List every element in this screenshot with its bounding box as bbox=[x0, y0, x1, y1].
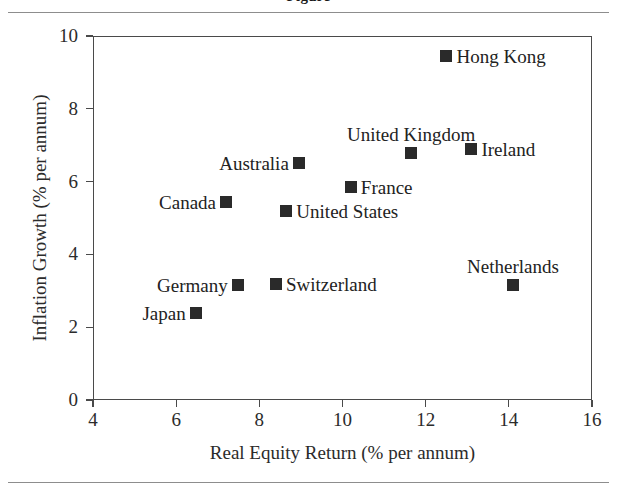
x-tick-label-6: 6 bbox=[156, 410, 196, 429]
plot-area: Hong KongIrelandUnited KingdomAustraliaF… bbox=[93, 36, 592, 400]
x-tick-label-16: 16 bbox=[572, 410, 612, 429]
x-tick-14 bbox=[508, 400, 509, 407]
y-tick-label-4: 4 bbox=[48, 244, 78, 263]
y-tick-8 bbox=[86, 108, 93, 109]
x-tick-4 bbox=[92, 400, 93, 407]
data-point-marker bbox=[270, 278, 282, 290]
x-tick-6 bbox=[176, 400, 177, 407]
y-tick-6 bbox=[86, 181, 93, 182]
data-point-marker bbox=[440, 50, 452, 62]
data-point-marker bbox=[232, 279, 244, 291]
x-tick-16 bbox=[591, 400, 592, 407]
y-tick-4 bbox=[86, 254, 93, 255]
y-tick-label-6: 6 bbox=[48, 172, 78, 191]
y-tick-10 bbox=[86, 35, 93, 36]
data-point-marker bbox=[190, 307, 202, 319]
data-point-marker bbox=[507, 279, 519, 291]
data-point-label: Germany bbox=[157, 276, 228, 295]
data-point-label: Switzerland bbox=[286, 275, 377, 294]
x-axis-label: Real Equity Return (% per annum) bbox=[93, 443, 592, 462]
x-tick-8 bbox=[259, 400, 260, 407]
data-point-label: Hong Kong bbox=[456, 47, 545, 66]
data-point-marker bbox=[220, 196, 232, 208]
x-tick-12 bbox=[425, 400, 426, 407]
data-point-label: Japan bbox=[142, 304, 185, 323]
x-tick-label-14: 14 bbox=[489, 410, 529, 429]
data-point-marker bbox=[345, 181, 357, 193]
data-point-marker bbox=[405, 147, 417, 159]
scatter-chart: 0246810 46810121416 Hong KongIrelandUnit… bbox=[0, 0, 617, 490]
data-point-marker bbox=[293, 157, 305, 169]
x-tick-label-4: 4 bbox=[73, 410, 113, 429]
x-tick-label-12: 12 bbox=[406, 410, 446, 429]
data-point-label: Canada bbox=[159, 193, 216, 212]
data-point-marker bbox=[280, 205, 292, 217]
y-axis-label: Inflation Growth (% per annum) bbox=[30, 36, 49, 400]
y-tick-label-0: 0 bbox=[48, 390, 78, 409]
y-tick-label-2: 2 bbox=[48, 317, 78, 336]
data-point-label: Netherlands bbox=[467, 257, 559, 276]
y-tick-label-10: 10 bbox=[48, 26, 78, 45]
data-point-label: Ireland bbox=[481, 140, 535, 159]
data-point-label: Australia bbox=[219, 154, 289, 173]
x-tick-label-8: 8 bbox=[239, 410, 279, 429]
y-tick-2 bbox=[86, 327, 93, 328]
x-tick-10 bbox=[342, 400, 343, 407]
x-tick-label-10: 10 bbox=[323, 410, 363, 429]
data-point-label: France bbox=[361, 178, 413, 197]
data-point-label: United Kingdom bbox=[347, 125, 475, 144]
y-tick-label-8: 8 bbox=[48, 99, 78, 118]
data-point-label: United States bbox=[296, 202, 398, 221]
